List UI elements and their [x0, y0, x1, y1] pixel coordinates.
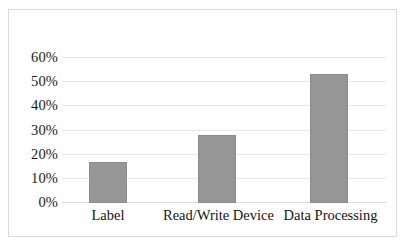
y-tick-label-30: 30% — [31, 123, 58, 138]
y-tick-label-20: 20% — [31, 147, 58, 162]
x-tick-label-0: Label — [62, 206, 154, 224]
x-tick-label-1: Read/Write Device — [163, 206, 271, 224]
bar-read-write-device — [198, 135, 236, 203]
bar-chart: 60% 50% 40% 30% 20% 10% 0% Label Read/Wr… — [0, 0, 406, 246]
y-tick-label-60: 60% — [31, 50, 58, 65]
y-tick-label-50: 50% — [31, 74, 58, 89]
y-axis: 60% 50% 40% 30% 20% 10% 0% — [10, 45, 58, 203]
bar-data-processing — [310, 74, 348, 203]
x-tick-label-2: Data Processing — [275, 206, 386, 224]
bars-layer — [62, 45, 386, 203]
x-axis: Label Read/Write Device Data Processing — [62, 206, 386, 232]
bar-label — [89, 162, 127, 203]
y-tick-label-40: 40% — [31, 98, 58, 113]
y-tick-label-0: 0% — [38, 195, 58, 210]
y-tick-label-10: 10% — [31, 171, 58, 186]
